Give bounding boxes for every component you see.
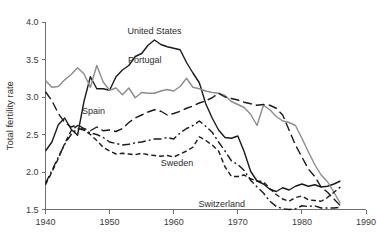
x-tick-label: 1940 <box>35 217 55 227</box>
series-label-switzerland: Switzerland <box>199 199 246 209</box>
y-tick-label: 3.0 <box>26 92 39 102</box>
x-tick-label: 1990 <box>356 217 376 227</box>
y-tick-label: 2.0 <box>26 167 39 177</box>
fertility-rate-chart: 1.52.02.53.03.54.01940195019601970198019… <box>0 0 377 247</box>
series-label-spain: Spain <box>82 106 105 116</box>
series-line-united-states <box>46 40 341 192</box>
series-label-united-states: United States <box>127 26 182 36</box>
y-tick-label: 4.0 <box>26 17 39 27</box>
series-label-portugal: Portugal <box>128 55 162 65</box>
y-tick-label: 3.5 <box>26 55 39 65</box>
y-tick-label: 1.5 <box>26 205 39 215</box>
x-tick-label: 1970 <box>228 217 248 227</box>
x-tick-label: 1950 <box>100 217 120 227</box>
chart-canvas: 1.52.02.53.03.54.01940195019601970198019… <box>0 0 377 247</box>
y-tick-label: 2.5 <box>26 130 39 140</box>
x-tick-label: 1960 <box>164 217 184 227</box>
y-axis-title: Total fertility rate <box>4 81 15 150</box>
series-label-sweden: Sweden <box>161 158 194 168</box>
x-tick-label: 1980 <box>292 217 312 227</box>
